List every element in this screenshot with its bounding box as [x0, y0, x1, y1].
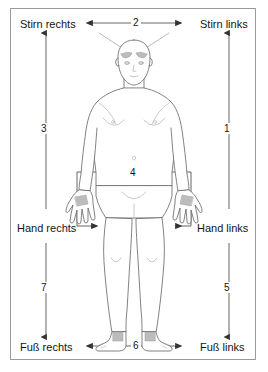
electrode-patch-foot-left — [145, 332, 155, 341]
nipple-left — [154, 121, 157, 124]
nipple-right — [112, 121, 115, 124]
arm-left — [170, 101, 189, 191]
callout-number-6: 6 — [131, 340, 141, 351]
callout-number-3: 3 — [39, 123, 49, 134]
leg-right — [104, 218, 132, 332]
label-stirn-links: Stirn links — [200, 18, 248, 30]
callout-number-7: 7 — [39, 282, 49, 293]
label-stirn-rechts: Stirn rechts — [20, 18, 76, 30]
label-fuss-links: Fuß links — [200, 341, 245, 353]
callout-number-1: 1 — [222, 123, 232, 134]
human-body-figure — [66, 33, 202, 351]
eye-left — [139, 62, 144, 65]
diagram-canvas — [0, 0, 268, 372]
callout-number-2: 2 — [131, 17, 141, 28]
electrode-patch-foot-right — [113, 332, 123, 341]
label-fuss-rechts: Fuß rechts — [20, 341, 73, 353]
label-hand-rechts: Hand rechts — [17, 222, 76, 234]
eye-right — [125, 62, 130, 65]
electrode-patch-hand-left — [180, 195, 193, 206]
foot-right — [96, 332, 126, 351]
leg-left — [136, 218, 164, 332]
callout-number-4: 4 — [128, 167, 138, 178]
navel — [132, 156, 135, 160]
foot-left — [142, 332, 172, 351]
callout-number-5: 5 — [222, 282, 232, 293]
label-hand-links: Hand links — [197, 222, 248, 234]
head — [118, 40, 150, 85]
hand-left — [173, 190, 202, 224]
hand-right — [66, 190, 95, 224]
anatomical-electrode-diagram: Stirn rechts Stirn links Hand rechts Han… — [0, 0, 268, 372]
electrode-patch-hand-right — [75, 195, 88, 206]
arm-right — [79, 101, 98, 191]
